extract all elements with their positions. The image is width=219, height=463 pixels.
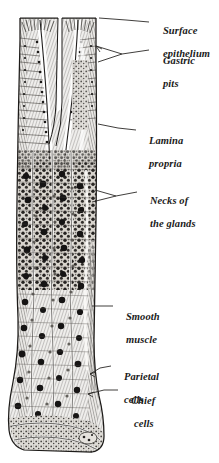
label-necks-of-the-glands: Necks of the glands xyxy=(139,183,196,253)
label-necks-of-the-glands-line1: Necks of xyxy=(150,195,188,206)
label-gastric-pits-line2: pits xyxy=(152,78,195,90)
label-smooth-muscle-line2: muscle xyxy=(115,334,160,346)
label-smooth-muscle-line1: Smooth xyxy=(126,311,160,322)
label-chief-cells: Chief cells xyxy=(120,383,155,453)
label-gastric-pits-line1: Gastric xyxy=(163,55,195,66)
label-surface-epithelium-line1: Surface xyxy=(163,25,198,36)
label-gastric-pits: Gastric pits xyxy=(152,43,195,113)
figure-page: Surface epithelium Gastric pits Lamina p… xyxy=(0,0,219,463)
label-necks-of-the-glands-line2: the glands xyxy=(139,218,196,230)
label-parietal-cells-line1: Parietal xyxy=(124,371,159,382)
label-lamina-propria-line1: Lamina xyxy=(149,135,183,146)
label-chief-cells-line1: Chief xyxy=(131,395,155,406)
label-lamina-propria-line2: propria xyxy=(138,158,183,170)
gastric-mucosa-illustration xyxy=(0,0,120,463)
label-chief-cells-line2: cells xyxy=(120,418,155,430)
